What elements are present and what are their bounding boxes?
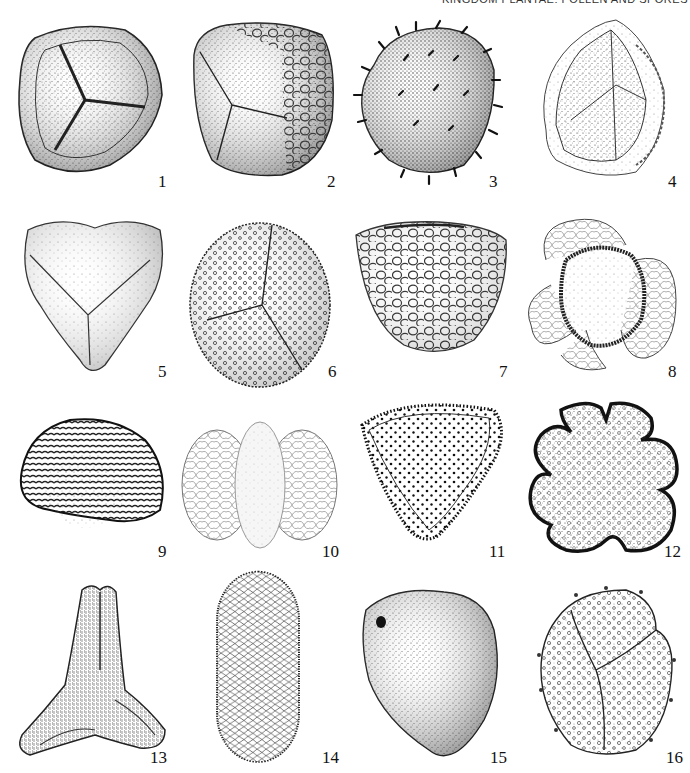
echinate-spore-illustration [172, 200, 344, 380]
figure-number: 3 [489, 172, 498, 192]
figure-number: 13 [150, 748, 167, 768]
trilete-spore-illustration [0, 0, 172, 193]
spiny-spore-illustration [344, 0, 516, 193]
figure-10: 10 [172, 390, 344, 560]
figure-15: 15 [344, 570, 516, 773]
figure-number: 5 [158, 362, 167, 382]
figure-number: 10 [322, 542, 339, 562]
perine-spore-illustration [516, 0, 690, 193]
figure-number: 6 [328, 362, 337, 382]
figure-1: 1 [0, 0, 172, 193]
figure-13: 13 [0, 570, 172, 773]
figure-number: 7 [499, 362, 508, 382]
figure-4: 4 [516, 0, 690, 193]
figure-number: 9 [158, 542, 167, 562]
figure-12: 12 [516, 390, 690, 560]
elongate-pollen-illustration [172, 570, 344, 773]
figure-number: 4 [668, 172, 677, 192]
figure-7: 7 [344, 200, 516, 380]
striate-pollen-illustration [0, 390, 172, 560]
figure-9: 9 [0, 390, 172, 560]
lobed-pollen-illustration [516, 390, 690, 560]
figure-number: 2 [327, 172, 336, 192]
figure-number: 16 [666, 748, 683, 768]
reticulate-spore-illustration [172, 0, 344, 193]
figure-5: 5 [0, 200, 172, 380]
porate-pollen-illustration [344, 570, 516, 773]
figure-number: 8 [668, 362, 677, 382]
figure-8: 8 [516, 200, 690, 380]
spinulose-spore-illustration [516, 570, 690, 773]
figure-11: 11 [344, 390, 516, 560]
triangular-spore-illustration [0, 200, 172, 380]
figure-3: 3 [344, 0, 516, 193]
three-armed-pollen-illustration [0, 570, 172, 773]
figure-14: 14 [172, 570, 344, 773]
triangular-pollen-illustration [344, 390, 516, 560]
bisaccate-pollen-illustration [172, 390, 344, 560]
figure-number: 11 [489, 542, 505, 562]
figure-number: 1 [158, 172, 167, 192]
figure-16: 16 [516, 570, 690, 773]
figure-number: 14 [322, 748, 339, 768]
figure-2: 2 [172, 0, 344, 193]
figure-number: 12 [664, 542, 681, 562]
figure-number: 15 [490, 748, 507, 768]
trisaccate-pollen-illustration [516, 200, 690, 380]
verrucate-spore-illustration [344, 200, 516, 380]
figure-6: 6 [172, 200, 344, 380]
